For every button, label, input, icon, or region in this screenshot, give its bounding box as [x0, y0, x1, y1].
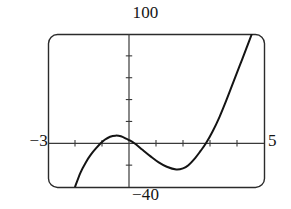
calculator-window-frame — [49, 35, 265, 188]
y-max-label: 100 — [0, 4, 291, 21]
x-max-label: 5 — [268, 132, 290, 149]
graph-figure: 100 −40 −3 5 — [0, 0, 291, 209]
plot-canvas — [0, 0, 291, 209]
y-min-label: −40 — [0, 186, 291, 203]
x-min-label: −3 — [14, 132, 48, 149]
